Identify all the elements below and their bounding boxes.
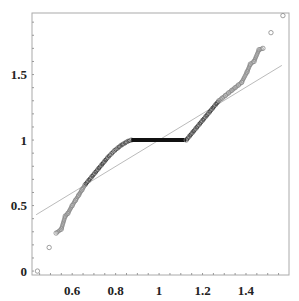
qq-plot: 0.60.811.21.4 00.511.5 <box>0 0 299 301</box>
data-point <box>35 269 39 273</box>
y-tick-label: 0 <box>21 264 28 279</box>
data-point <box>281 13 285 17</box>
x-tick-label: 1.4 <box>238 283 255 298</box>
plot-frame <box>32 13 289 275</box>
x-axis-labels: 0.60.811.21.4 <box>64 283 255 298</box>
data-point <box>47 245 51 249</box>
data-point <box>269 30 273 34</box>
y-axis-labels: 00.511.5 <box>11 67 28 279</box>
y-tick-label: 1.5 <box>11 67 28 82</box>
data-points <box>35 13 285 273</box>
y-tick-label: 0.5 <box>11 198 28 213</box>
y-tick-label: 1 <box>21 133 28 148</box>
x-tick-label: 1 <box>156 283 163 298</box>
x-tick-label: 0.6 <box>64 283 81 298</box>
x-tick-label: 1.2 <box>194 283 210 298</box>
x-tick-label: 0.8 <box>108 283 125 298</box>
